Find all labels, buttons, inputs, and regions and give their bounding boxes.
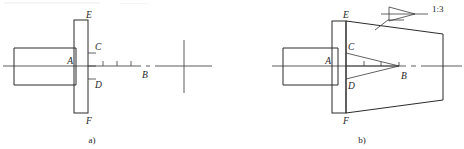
label-d-b: D [347,81,355,91]
drawing-canvas: E C A D F B a) [0,0,464,149]
shaft-body-b [283,48,338,85]
label-f-a: F [85,116,92,126]
diagram-a: E C A D F B a) [3,10,212,145]
caption-a: a) [89,135,96,145]
scan-artifact [4,2,100,4]
label-a-b: A [324,56,331,66]
taper-ratio-text: 1:3 [432,4,444,14]
figure-root: E C A D F B a) [0,0,464,149]
label-b-b: B [401,71,407,81]
label-c-b: C [348,42,355,52]
label-e-b: E [342,10,349,20]
label-d-a: D [94,80,102,90]
scan-artifact [120,3,148,4]
label-f-b: F [342,116,349,126]
label-a-a: A [66,56,73,66]
flange-plate-b [332,21,346,113]
label-b-a: B [142,70,148,80]
caption-b: b) [358,135,366,145]
shaft-body-a [14,48,76,85]
label-c-a: C [95,42,102,52]
label-e-a: E [85,10,92,20]
diagram-b: 1:3 E C A D F B b) [272,4,462,145]
